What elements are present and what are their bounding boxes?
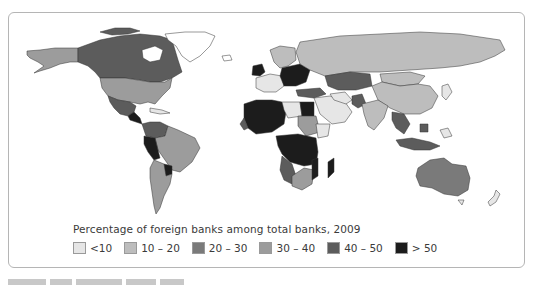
legend-swatch [192, 242, 205, 254]
legend-item-40-50: 40 – 50 [327, 242, 383, 254]
region-kazakhstan [325, 72, 372, 90]
legend-item-20-30: 20 – 30 [192, 242, 248, 254]
region-colombia-venezuela [142, 122, 168, 138]
region-uk [252, 64, 265, 76]
legend-item-lt10: <10 [73, 242, 112, 254]
region-madagascar [328, 158, 334, 178]
region-russia [296, 32, 505, 76]
legend-swatch [395, 242, 408, 254]
legend: <10 10 – 20 20 – 30 30 – 40 40 – 50 > 50 [73, 242, 437, 254]
legend-swatch [327, 242, 340, 254]
region-japan [442, 84, 452, 100]
legend-label: 10 – 20 [141, 242, 180, 254]
region-australia [416, 158, 470, 196]
cut-off-figure-caption [8, 279, 198, 285]
legend-swatch [259, 242, 272, 254]
region-south-africa [292, 168, 314, 190]
legend-item-gt50: > 50 [395, 242, 438, 254]
legend-label: <10 [90, 242, 112, 254]
legend-title: Percentage of foreign banks among total … [73, 223, 361, 235]
legend-item-30-40: 30 – 40 [259, 242, 315, 254]
region-turkey [296, 88, 326, 98]
legend-swatch [73, 242, 86, 254]
region-new-zealand [488, 190, 500, 206]
legend-swatch [124, 242, 137, 254]
legend-item-10-20: 10 – 20 [124, 242, 180, 254]
region-canada [78, 34, 182, 82]
region-western-europe [256, 74, 284, 92]
region-scandinavia [270, 46, 296, 68]
region-alaska [27, 48, 78, 73]
legend-label: 30 – 40 [276, 242, 315, 254]
legend-label: 20 – 30 [209, 242, 248, 254]
region-egypt [300, 102, 314, 116]
region-indonesia [396, 138, 440, 150]
region-nw-africa [244, 100, 286, 134]
region-india [362, 100, 388, 130]
legend-label: 40 – 50 [344, 242, 383, 254]
region-southeast-asia [392, 112, 410, 134]
legend-label: > 50 [412, 242, 438, 254]
